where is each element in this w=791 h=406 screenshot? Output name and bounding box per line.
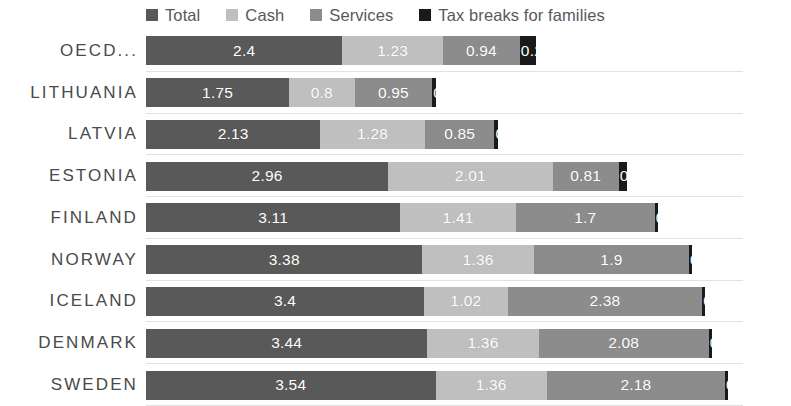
bar-row: LATVIA2.131.280.850 <box>0 114 791 156</box>
bar-value-label: 1.36 <box>463 251 494 269</box>
bar-value-label: 0 <box>495 125 497 143</box>
bar-segment[interactable]: 1.36 <box>436 371 547 400</box>
legend-label: Cash <box>245 6 284 25</box>
bar-segment[interactable]: 0.1 <box>619 162 627 191</box>
bar-row: ESTONIA2.962.010.810.1 <box>0 155 791 197</box>
category-label: ESTONIA <box>0 155 138 197</box>
legend-item[interactable]: Cash <box>226 6 284 25</box>
bar-segment[interactable]: 0.94 <box>443 36 520 65</box>
bar-segment[interactable]: 1.28 <box>320 120 425 149</box>
bar-segment[interactable]: 3.38 <box>146 245 422 274</box>
stacked-bar[interactable]: 2.41.230.940.2 <box>146 36 536 65</box>
stacked-bar[interactable]: 3.441.362.080 <box>146 329 712 358</box>
bar-segment[interactable]: 1.36 <box>422 245 533 274</box>
bar-value-label: 0 <box>656 209 658 227</box>
bar-rows: OECD...2.41.230.940.2LITHUANIA1.750.80.9… <box>0 30 791 406</box>
bar-track: 2.131.280.850 <box>146 114 498 156</box>
category-label: DENMARK <box>0 322 138 364</box>
bar-value-label: 2.08 <box>608 334 639 352</box>
bar-segment[interactable]: 0 <box>432 78 435 107</box>
bar-segment[interactable]: 3.4 <box>146 287 424 316</box>
bar-value-label: 1.28 <box>357 125 388 143</box>
bar-track: 2.41.230.940.2 <box>146 30 536 72</box>
bar-segment[interactable]: 0 <box>494 120 497 149</box>
bar-track: 3.41.022.380 <box>146 281 705 323</box>
bar-value-label: 1.9 <box>600 251 622 269</box>
category-label: OECD... <box>0 30 138 72</box>
legend-item[interactable]: Tax breaks for families <box>419 6 604 25</box>
category-label: NORWAY <box>0 239 138 281</box>
bar-segment[interactable]: 2.18 <box>547 371 725 400</box>
plot-area: OECD...2.41.230.940.2LITHUANIA1.750.80.9… <box>0 30 791 406</box>
bar-segment[interactable]: 0.85 <box>425 120 495 149</box>
bar-segment[interactable]: 2.01 <box>388 162 552 191</box>
chart-container: TotalCashServicesTax breaks for families… <box>0 0 791 406</box>
bar-segment[interactable]: 3.54 <box>146 371 436 400</box>
bar-value-label: 0 <box>710 334 712 352</box>
bar-value-label: 0.95 <box>378 84 409 102</box>
bar-segment[interactable]: 2.4 <box>146 36 342 65</box>
bar-track: 2.962.010.810.1 <box>146 155 627 197</box>
bar-track: 3.541.362.180 <box>146 364 728 406</box>
category-label: ICELAND <box>0 281 138 323</box>
bar-value-label: 2.4 <box>233 42 255 60</box>
stacked-bar[interactable]: 3.111.411.70 <box>146 203 658 232</box>
category-label: LATVIA <box>0 114 138 156</box>
bar-segment[interactable]: 0 <box>725 371 728 400</box>
bar-segment[interactable]: 1.41 <box>400 203 515 232</box>
bar-value-label: 1.36 <box>468 334 499 352</box>
stacked-bar[interactable]: 3.381.361.90 <box>146 245 692 274</box>
stacked-bar[interactable]: 1.750.80.950 <box>146 78 436 107</box>
bar-value-label: 1.41 <box>443 209 474 227</box>
bar-value-label: 1.36 <box>476 376 507 394</box>
bar-segment[interactable]: 3.11 <box>146 203 400 232</box>
bar-segment[interactable]: 2.13 <box>146 120 320 149</box>
bar-segment[interactable]: 1.75 <box>146 78 289 107</box>
legend-item[interactable]: Services <box>310 6 393 25</box>
bar-row: NORWAY3.381.361.90 <box>0 239 791 281</box>
stacked-bar[interactable]: 3.41.022.380 <box>146 287 705 316</box>
bar-segment[interactable]: 0 <box>689 245 692 274</box>
bar-value-label: 0.8 <box>311 84 333 102</box>
bar-value-label: 0 <box>726 376 728 394</box>
stacked-bar[interactable]: 2.962.010.810.1 <box>146 162 627 191</box>
bar-segment[interactable]: 0.8 <box>289 78 354 107</box>
bar-segment[interactable]: 0.81 <box>553 162 619 191</box>
bar-segment[interactable]: 1.02 <box>424 287 507 316</box>
bar-track: 1.750.80.950 <box>146 72 436 114</box>
bar-value-label: 3.11 <box>258 209 288 227</box>
bar-segment[interactable]: 1.36 <box>427 329 538 358</box>
bar-segment[interactable]: 2.38 <box>508 287 703 316</box>
legend-label: Total <box>165 6 200 25</box>
bar-segment[interactable]: 3.44 <box>146 329 427 358</box>
legend-swatch-services <box>310 9 322 21</box>
bar-segment[interactable]: 0 <box>655 203 658 232</box>
bar-segment[interactable]: 0.2 <box>520 36 536 65</box>
bar-row: ICELAND3.41.022.380 <box>0 281 791 323</box>
bar-segment[interactable]: 1.9 <box>534 245 689 274</box>
bar-row: FINLAND3.111.411.70 <box>0 197 791 239</box>
bar-segment[interactable]: 0 <box>702 287 705 316</box>
bar-value-label: 2.96 <box>252 167 283 185</box>
bar-row: LITHUANIA1.750.80.950 <box>0 72 791 114</box>
stacked-bar[interactable]: 3.541.362.180 <box>146 371 728 400</box>
bar-segment[interactable]: 1.23 <box>342 36 443 65</box>
legend-item[interactable]: Total <box>146 6 200 25</box>
bar-value-label: 0 <box>703 292 705 310</box>
bar-value-label: 3.44 <box>271 334 302 352</box>
category-label: FINLAND <box>0 197 138 239</box>
legend-swatch-tax-breaks <box>419 9 431 21</box>
bar-value-label: 1.23 <box>377 42 408 60</box>
bar-segment[interactable]: 2.08 <box>539 329 709 358</box>
bar-value-label: 0.81 <box>570 167 601 185</box>
bar-segment[interactable]: 1.7 <box>516 203 655 232</box>
bar-value-label: 0.2 <box>521 42 536 60</box>
bar-segment[interactable]: 0.95 <box>355 78 433 107</box>
bar-value-label: 2.38 <box>589 292 620 310</box>
stacked-bar[interactable]: 2.131.280.850 <box>146 120 498 149</box>
bar-track: 3.381.361.90 <box>146 239 692 281</box>
bar-segment[interactable]: 0 <box>709 329 712 358</box>
bar-track: 3.111.411.70 <box>146 197 658 239</box>
bar-segment[interactable]: 2.96 <box>146 162 388 191</box>
bar-value-label: 1.7 <box>574 209 596 227</box>
